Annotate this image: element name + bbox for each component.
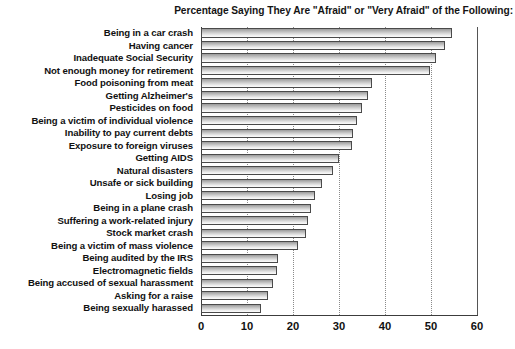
bar-row — [201, 90, 477, 103]
category-label: Being a victim of mass violence — [0, 240, 197, 253]
bar-row — [201, 277, 477, 290]
bar-row — [201, 65, 477, 78]
chart-title: Percentage Saying They Are "Afraid" or "… — [0, 5, 513, 16]
bar-row — [201, 27, 477, 40]
bar-row — [201, 40, 477, 53]
category-label: Losing job — [0, 190, 197, 203]
bar-row — [201, 127, 477, 140]
bar-row — [201, 115, 477, 128]
category-label: Inadequate Social Security — [0, 52, 197, 65]
bar-row — [201, 102, 477, 115]
category-label: Electromagnetic fields — [0, 265, 197, 278]
bar-row — [201, 202, 477, 215]
category-axis-labels: Being in a car crashHaving cancerInadequ… — [0, 27, 197, 315]
bar — [201, 191, 315, 200]
category-label: Being in a car crash — [0, 27, 197, 40]
bar — [201, 254, 278, 263]
bar-row — [201, 52, 477, 65]
bar — [201, 141, 352, 150]
x-tick-label: 20 — [273, 320, 313, 332]
bar-chart: Percentage Saying They Are "Afraid" or "… — [0, 0, 515, 349]
bar — [201, 266, 277, 275]
bar-row — [201, 140, 477, 153]
bar — [201, 116, 357, 125]
category-label: Being audited by the IRS — [0, 252, 197, 265]
x-tick-label: 30 — [319, 320, 359, 332]
category-label: Natural disasters — [0, 165, 197, 178]
category-label: Getting AIDS — [0, 152, 197, 165]
bar — [201, 166, 333, 175]
bar — [201, 53, 436, 62]
category-label: Being in a plane crash — [0, 202, 197, 215]
bar-row — [201, 252, 477, 265]
bar — [201, 103, 362, 112]
bar — [201, 204, 311, 213]
bar — [201, 216, 308, 225]
bar — [201, 179, 322, 188]
x-tick-label: 40 — [365, 320, 405, 332]
x-tick-label: 50 — [411, 320, 451, 332]
x-tick-label: 60 — [457, 320, 497, 332]
category-label: Pesticides on food — [0, 102, 197, 115]
category-label: Being sexually harassed — [0, 302, 197, 315]
bar-row — [201, 152, 477, 165]
bar-row — [201, 290, 477, 303]
x-tick-label: 10 — [227, 320, 267, 332]
category-label: Unsafe or sick building — [0, 177, 197, 190]
bar — [201, 154, 339, 163]
bar-row — [201, 302, 477, 315]
bar-row — [201, 215, 477, 228]
bar — [201, 41, 445, 50]
gridline-60 — [477, 27, 479, 315]
bar — [201, 279, 273, 288]
bar-row — [201, 77, 477, 90]
bar — [201, 66, 430, 75]
bar-series — [201, 27, 477, 315]
bar-row — [201, 165, 477, 178]
value-axis-tick-labels: 0102030405060 — [0, 320, 515, 340]
category-label: Getting Alzheimer's — [0, 90, 197, 103]
bar — [201, 28, 452, 37]
category-label: Food poisoning from meat — [0, 77, 197, 90]
bar-row — [201, 177, 477, 190]
category-label: Exposure to foreign viruses — [0, 140, 197, 153]
bar — [201, 229, 306, 238]
category-label: Suffering a work-related injury — [0, 215, 197, 228]
category-label: Not enough money for retirement — [0, 65, 197, 78]
x-tick-label: 0 — [181, 320, 221, 332]
category-label: Asking for a raise — [0, 290, 197, 303]
bar — [201, 91, 368, 100]
value-axis-line — [201, 315, 478, 316]
bar — [201, 291, 268, 300]
category-label: Stock market crash — [0, 227, 197, 240]
bar — [201, 304, 261, 313]
category-label: Being a victim of individual violence — [0, 115, 197, 128]
bar-row — [201, 190, 477, 203]
bar — [201, 78, 372, 87]
bar-row — [201, 240, 477, 253]
bar-row — [201, 227, 477, 240]
bar — [201, 129, 353, 138]
category-label: Inability to pay current debts — [0, 127, 197, 140]
category-label: Being accused of sexual harassment — [0, 277, 197, 290]
bar-row — [201, 265, 477, 278]
category-label: Having cancer — [0, 40, 197, 53]
bar — [201, 241, 298, 250]
